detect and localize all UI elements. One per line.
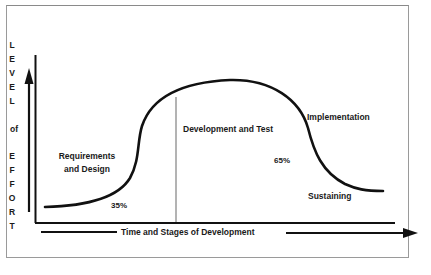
y-label-letter: F — [9, 165, 14, 175]
phase-label-design: and Design — [64, 164, 110, 174]
x-axis-label: Time and Stages of Development — [121, 227, 255, 237]
y-label-letter: L — [9, 96, 14, 106]
level-of-effort-diagram: L E V E L of E F F O R T Requirements an… — [0, 0, 431, 275]
y-axis-label: L E V E L of E F F O R T — [9, 40, 18, 231]
phase-percent-65: 65% — [274, 156, 290, 165]
y-label-letter: T — [9, 221, 15, 231]
y-label-letter: L — [9, 40, 14, 50]
y-label-word-of: of — [10, 124, 18, 134]
y-label-letter: F — [9, 179, 14, 189]
effort-curve — [45, 80, 383, 207]
phase-percent-35: 35% — [111, 201, 127, 210]
y-label-letter: E — [9, 151, 15, 161]
y-label-letter: O — [9, 193, 16, 203]
phase-label-implementation: Implementation — [307, 112, 370, 122]
y-label-letter: E — [9, 54, 15, 64]
phase-label-requirements: Requirements — [59, 151, 116, 161]
phase-label-development-test: Development and Test — [183, 124, 273, 134]
arrow-up-icon — [25, 68, 34, 84]
y-label-letter: R — [9, 207, 15, 217]
x-axis-label-group: Time and Stages of Development — [41, 227, 418, 238]
y-arrow — [25, 68, 34, 212]
y-label-letter: E — [9, 82, 15, 92]
phase-label-sustaining: Sustaining — [308, 191, 351, 201]
y-label-letter: V — [9, 68, 15, 78]
arrow-right-icon — [403, 228, 418, 238]
